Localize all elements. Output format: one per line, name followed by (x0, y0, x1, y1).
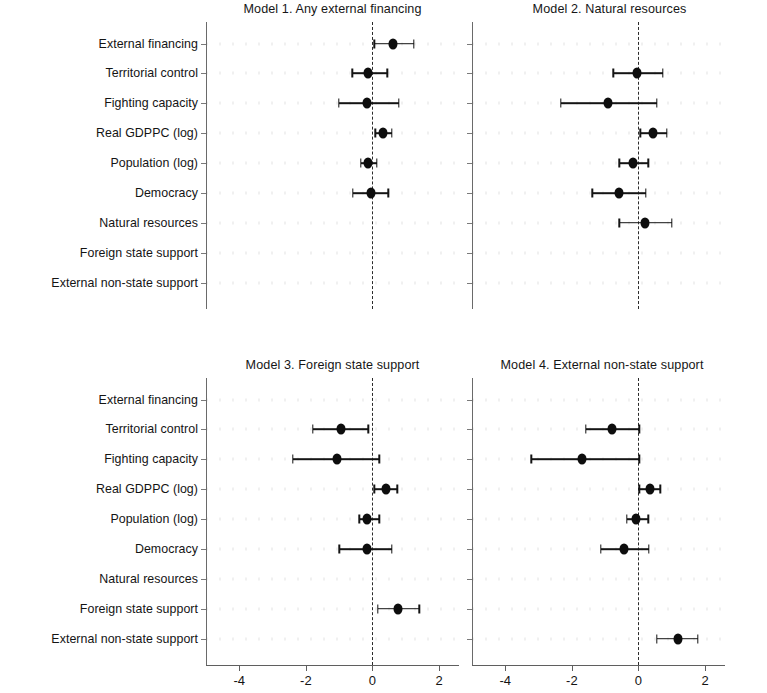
scan-texture (472, 488, 725, 491)
confidence-interval-cap (656, 634, 657, 643)
confidence-interval-cap (660, 485, 661, 494)
y-axis-model-4 (472, 378, 473, 665)
y-tick (467, 489, 472, 490)
scan-texture (472, 518, 725, 521)
plot-area-model-4 (472, 378, 725, 665)
panel-title-model-4: Model 4. External non-state support (452, 358, 752, 372)
point-estimate-marker (673, 633, 682, 644)
x-tick (638, 665, 639, 671)
confidence-interval-cap (531, 455, 532, 464)
x-tick (705, 665, 706, 671)
x-axis-model-4 (472, 665, 725, 666)
y-tick (467, 519, 472, 520)
x-tick-label: 2 (701, 673, 708, 688)
confidence-interval-cap (638, 425, 639, 434)
y-tick (467, 579, 472, 580)
point-estimate-marker (631, 514, 640, 525)
y-tick (467, 429, 472, 430)
point-estimate-marker (646, 484, 655, 495)
x-tick (572, 665, 573, 671)
y-tick (467, 400, 472, 401)
confidence-interval-cap (648, 545, 649, 554)
confidence-interval-cap (600, 545, 601, 554)
scan-texture (472, 398, 725, 401)
scan-texture (472, 548, 725, 551)
x-tick-label: 0 (635, 673, 642, 688)
panel-model-4: Model 4. External non-state support-4-20… (0, 0, 767, 693)
y-tick (467, 609, 472, 610)
confidence-interval-cap (626, 515, 627, 524)
point-estimate-marker (577, 454, 586, 465)
confidence-interval-cap (648, 515, 649, 524)
y-tick (467, 639, 472, 640)
confidence-interval-cap (585, 425, 586, 434)
scan-texture (472, 577, 725, 580)
y-tick (467, 459, 472, 460)
point-estimate-marker (607, 424, 616, 435)
y-tick (467, 549, 472, 550)
x-tick-label: -4 (500, 673, 512, 688)
x-tick-label: -2 (566, 673, 578, 688)
confidence-interval-cap (697, 634, 698, 643)
point-estimate-marker (619, 544, 628, 555)
scan-texture (472, 607, 725, 610)
x-tick (505, 665, 506, 671)
confidence-interval-cap (639, 455, 640, 464)
coefficient-plot-figure: Model 1. Any external financingExternal … (0, 0, 767, 693)
confidence-interval-cap (639, 485, 640, 494)
